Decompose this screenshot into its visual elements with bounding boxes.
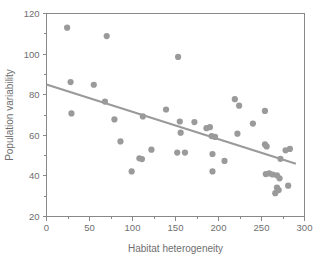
y-tick-label: 20 bbox=[29, 211, 40, 222]
data-point bbox=[67, 79, 73, 85]
x-tick-label: 250 bbox=[254, 222, 270, 233]
data-points bbox=[64, 25, 293, 197]
data-point bbox=[277, 156, 283, 162]
data-point bbox=[236, 103, 242, 109]
data-point bbox=[276, 175, 282, 181]
trend-line bbox=[47, 85, 296, 164]
data-point bbox=[287, 146, 293, 152]
x-axis-title: Habitat heterogeneity bbox=[128, 243, 223, 254]
data-point bbox=[221, 158, 227, 164]
data-point bbox=[68, 110, 74, 116]
data-point bbox=[177, 118, 183, 124]
data-point bbox=[178, 130, 184, 136]
axis-frame bbox=[47, 14, 305, 217]
data-point bbox=[182, 149, 188, 155]
data-point bbox=[262, 108, 268, 114]
data-point bbox=[276, 187, 282, 193]
x-axis-tick-labels: 050100150200250300 bbox=[44, 222, 313, 233]
data-point bbox=[209, 151, 215, 157]
data-point bbox=[209, 168, 215, 174]
scatter-plot-figure: 20406080100120 050100150200250300 Habita… bbox=[0, 0, 317, 263]
y-tick-label: 40 bbox=[29, 170, 40, 181]
data-point bbox=[232, 96, 238, 102]
data-point bbox=[91, 82, 97, 88]
regression-line bbox=[47, 85, 296, 164]
data-point bbox=[234, 131, 240, 137]
x-tick-label: 300 bbox=[297, 222, 313, 233]
data-point bbox=[175, 54, 181, 60]
data-point bbox=[102, 99, 108, 105]
chart-canvas: 20406080100120 050100150200250300 Habita… bbox=[0, 0, 317, 263]
data-point bbox=[163, 106, 169, 112]
x-tick-label: 100 bbox=[125, 222, 141, 233]
x-axis-ticks bbox=[47, 217, 305, 221]
data-point bbox=[64, 25, 70, 31]
x-tick-label: 150 bbox=[168, 222, 184, 233]
y-axis-title: Population variability bbox=[4, 69, 15, 161]
x-tick-label: 0 bbox=[44, 222, 49, 233]
data-point bbox=[212, 134, 218, 140]
data-point bbox=[139, 156, 145, 162]
data-point bbox=[174, 149, 180, 155]
y-axis-tick-labels: 20406080100120 bbox=[24, 8, 40, 222]
data-point bbox=[250, 120, 256, 126]
data-point bbox=[148, 147, 154, 153]
y-tick-label: 80 bbox=[29, 89, 40, 100]
data-point bbox=[264, 143, 270, 149]
y-tick-label: 120 bbox=[24, 8, 40, 19]
data-point bbox=[129, 168, 135, 174]
data-point bbox=[285, 183, 291, 189]
data-point bbox=[207, 124, 213, 130]
data-point bbox=[104, 33, 110, 39]
data-point bbox=[111, 116, 117, 122]
y-axis-ticks bbox=[43, 14, 47, 217]
data-point bbox=[191, 119, 197, 125]
data-point bbox=[140, 113, 146, 119]
data-point bbox=[117, 138, 123, 144]
x-tick-label: 50 bbox=[84, 222, 95, 233]
x-tick-label: 200 bbox=[211, 222, 227, 233]
y-tick-label: 60 bbox=[29, 130, 40, 141]
y-tick-label: 100 bbox=[24, 49, 40, 60]
